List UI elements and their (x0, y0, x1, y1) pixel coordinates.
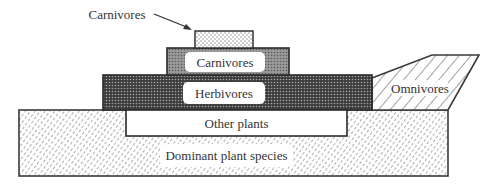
dominant-plants-label: Dominant plant species (165, 148, 287, 163)
omnivores-label: Omnivores (391, 81, 449, 96)
arrowhead-icon (183, 24, 192, 30)
trophic-diagram: Dominant plant species Omnivores Herbivo… (0, 0, 493, 185)
arrow-icon (154, 14, 189, 28)
layer-omnivores: Omnivores (372, 55, 479, 110)
callout-label: Carnivores (88, 7, 145, 22)
layer-carnivores: Carnivores (167, 48, 289, 75)
carnivores-label: Carnivores (196, 55, 253, 70)
layer-top-carnivores (195, 31, 253, 48)
other-plants-label: Other plants (205, 116, 269, 131)
layer-other-plants: Other plants (126, 110, 347, 136)
herbivores-label: Herbivores (195, 86, 253, 101)
layer-herbivores: Herbivores (103, 75, 372, 110)
callout-top-carnivores: Carnivores (88, 7, 192, 30)
